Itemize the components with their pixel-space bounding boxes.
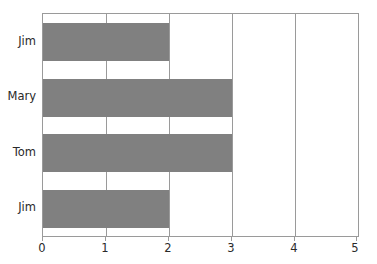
bar-tom [43, 134, 232, 172]
bar-mary [43, 79, 232, 117]
x-axis-tick-label: 2 [155, 241, 181, 255]
plot-area [42, 13, 359, 237]
y-axis-tick-label: Tom [0, 146, 36, 159]
x-axis-tick-label: 5 [342, 241, 368, 255]
bar-slot [43, 125, 358, 181]
y-axis-labels: Jim Mary Tom Jim [0, 13, 36, 237]
bar-slot [43, 14, 358, 70]
x-axis-labels: 0 1 2 3 4 5 [42, 241, 359, 259]
y-axis-tick-label: Jim [0, 201, 36, 214]
x-axis-tick-label: 1 [92, 241, 118, 255]
bar-jim-2 [43, 190, 169, 228]
bar-jim-1 [43, 23, 169, 61]
x-axis-tick-label: 0 [29, 241, 55, 255]
bar-slot [43, 70, 358, 126]
y-axis-tick-label: Jim [0, 35, 36, 48]
bar-chart: Jim Mary Tom Jim 0 1 2 3 4 5 [0, 0, 377, 264]
x-axis-tick-label: 3 [218, 241, 244, 255]
x-axis-tick-label: 4 [281, 241, 307, 255]
y-axis-tick-label: Mary [0, 90, 36, 103]
bar-slot [43, 181, 358, 237]
